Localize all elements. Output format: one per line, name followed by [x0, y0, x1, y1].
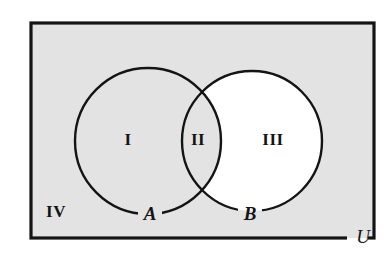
region-label-iii: III [262, 130, 283, 149]
set-label-b: B [243, 203, 257, 224]
venn-diagram-figure: I II III IV A B U [0, 0, 389, 256]
region-label-i: I [124, 130, 131, 149]
venn-diagram-canvas: I II III IV A B U [0, 0, 389, 256]
region-label-ii: II [191, 130, 205, 149]
region-label-iv: IV [46, 202, 66, 221]
set-label-a: A [143, 203, 157, 224]
universal-set-label: U [356, 226, 371, 247]
